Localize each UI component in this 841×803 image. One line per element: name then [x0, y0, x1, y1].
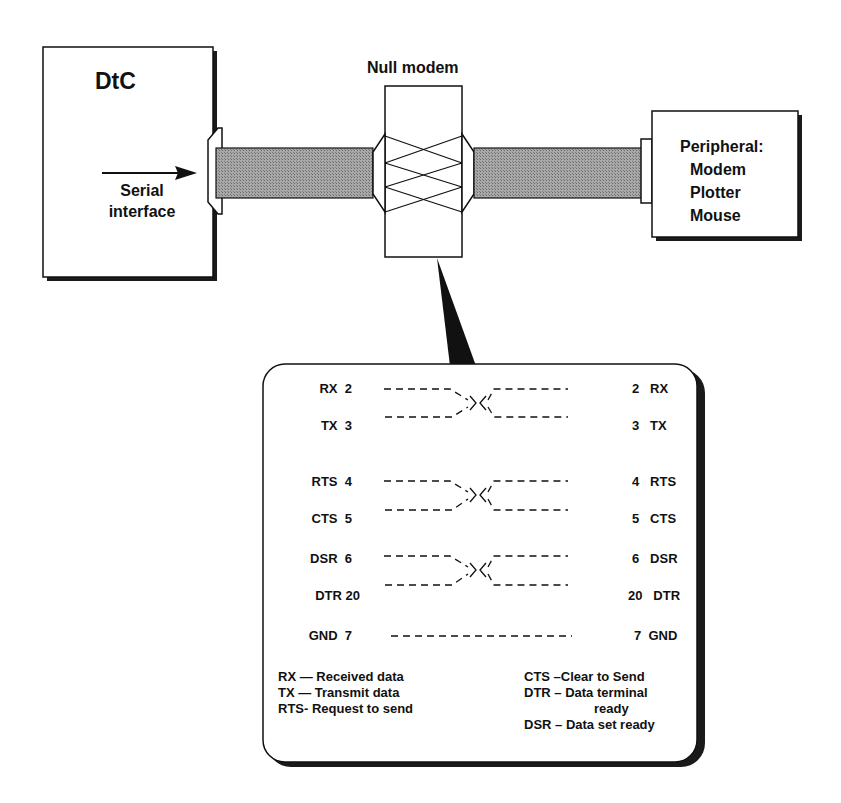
- legend-left: RX — Received data TX — Transmit data RT…: [278, 669, 413, 717]
- legend-dtr-cont: ready: [524, 701, 655, 717]
- legend-tx: TX — Transmit data: [278, 685, 413, 701]
- left-pin-tx: TX 3: [252, 418, 352, 433]
- legend-rts: RTS- Request to send: [278, 701, 413, 717]
- null-modem-box: [373, 86, 474, 257]
- legend-dtr: DTR – Data terminal: [524, 685, 655, 701]
- callout-pointer: [437, 258, 476, 366]
- peripheral-connector: [641, 139, 652, 203]
- legend-right: CTS –Clear to Send DTR – Data terminal r…: [524, 669, 655, 733]
- serial-label-line1: Serial: [96, 180, 188, 201]
- left-pin-rts: RTS 4: [252, 474, 352, 489]
- serial-label-line2: interface: [96, 201, 188, 222]
- peripheral-item-modem: Modem: [680, 158, 764, 181]
- dtc-title: DtC: [95, 68, 136, 95]
- serial-interface-label: Serial interface: [96, 180, 188, 222]
- left-pin-dsr: DSR 6: [252, 551, 352, 566]
- left-pin-dtr: DTR 20: [260, 588, 360, 603]
- cable-right: [474, 148, 642, 198]
- peripheral-item-plotter: Plotter: [680, 181, 764, 204]
- right-pin-dtr: 20 DTR: [628, 588, 680, 603]
- peripheral-label: Peripheral: Modem Plotter Mouse: [680, 135, 764, 227]
- left-pin-rx: RX 2: [252, 381, 352, 396]
- null-modem-label: Null modem: [367, 59, 459, 77]
- legend-cts: CTS –Clear to Send: [524, 669, 655, 685]
- legend-rx: RX — Received data: [278, 669, 413, 685]
- right-pin-rx: 2 RX: [632, 381, 668, 396]
- right-pin-tx: 3 TX: [632, 418, 667, 433]
- right-pin-rts: 4 RTS: [632, 474, 676, 489]
- legend-dsr: DSR – Data set ready: [524, 717, 655, 733]
- diagram-canvas: [0, 0, 841, 803]
- right-pin-gnd: 7 GND: [634, 628, 677, 643]
- peripheral-title: Peripheral:: [680, 135, 764, 158]
- left-pin-gnd: GND 7: [252, 628, 352, 643]
- right-pin-dsr: 6 DSR: [632, 551, 678, 566]
- left-pin-cts: CTS 5: [252, 511, 352, 526]
- right-pin-cts: 5 CTS: [632, 511, 676, 526]
- cable-left: [216, 148, 373, 198]
- peripheral-item-mouse: Mouse: [680, 204, 764, 227]
